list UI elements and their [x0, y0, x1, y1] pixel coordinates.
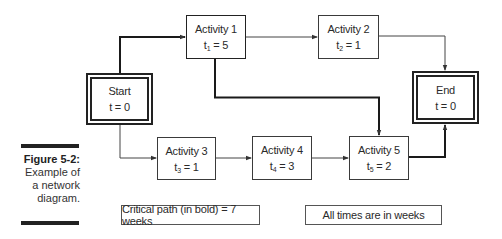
- node-activity-2: Activity 2 t2 = 1: [318, 15, 379, 59]
- node-end-title: End: [436, 82, 455, 98]
- figure-caption: Figure 5-2: Example of a network diagram…: [18, 153, 80, 205]
- node-start-title: Start: [108, 83, 130, 99]
- node-activity-1: Activity 1 t1 = 5: [186, 15, 246, 59]
- critical-path-note: Critical path (in bold) = 7 weeks: [121, 205, 260, 225]
- network-diagram: Start t = 0 Activity 1 t1 = 5 Activity 2…: [0, 0, 502, 239]
- node-activity-2-title: Activity 2: [327, 21, 369, 37]
- node-activity-4-time: t4 = 3: [270, 158, 294, 174]
- node-activity-5-time: t5 = 2: [367, 158, 391, 174]
- node-activity-5: Activity 5 t5 = 2: [349, 136, 409, 180]
- node-activity-1-title: Activity 1: [195, 21, 237, 37]
- node-activity-3: Activity 3 t3 = 1: [157, 137, 216, 180]
- edge-a2-end: [378, 36, 445, 70]
- edge-a5-end: [408, 125, 445, 157]
- edge-start-a1: [120, 37, 185, 73]
- caption-bottom-rule: [21, 221, 79, 225]
- node-start: Start t = 0: [86, 73, 153, 125]
- node-activity-4-title: Activity 4: [261, 142, 303, 158]
- figure-label: Figure 5-2:: [18, 153, 80, 166]
- node-start-time: t = 0: [109, 99, 130, 115]
- edge-a1-a5: [215, 58, 379, 135]
- node-activity-4: Activity 4 t4 = 3: [252, 136, 312, 180]
- units-note: All times are in weeks: [305, 205, 442, 225]
- node-activity-1-time: t1 = 5: [204, 37, 228, 53]
- node-activity-3-title: Activity 3: [165, 143, 207, 159]
- caption-line-2: a network: [18, 179, 80, 192]
- edge-start-a3: [120, 125, 156, 158]
- node-activity-5-title: Activity 5: [358, 142, 400, 158]
- node-end-time: t = 0: [435, 98, 456, 114]
- node-activity-2-time: t2 = 1: [336, 37, 360, 53]
- caption-top-rule: [21, 144, 79, 148]
- caption-line-1: Example of: [18, 166, 80, 179]
- node-end: End t = 0: [412, 71, 479, 124]
- caption-line-3: diagram.: [18, 192, 80, 205]
- node-activity-3-time: t3 = 1: [174, 159, 198, 175]
